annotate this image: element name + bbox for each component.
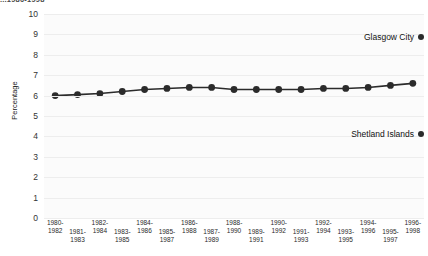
- y-axis-tick-labels: 109876543210: [16, 0, 38, 256]
- data-point[interactable]: [164, 85, 171, 92]
- data-point[interactable]: [409, 80, 416, 87]
- data-point[interactable]: [231, 86, 238, 93]
- data-point[interactable]: [186, 84, 193, 91]
- x-axis-tick: 1996-1998: [393, 219, 428, 235]
- y-axis-tick: 9: [22, 30, 38, 39]
- gridline: [44, 96, 424, 97]
- data-point[interactable]: [365, 84, 372, 91]
- y-axis-tick: 3: [22, 153, 38, 162]
- data-point[interactable]: [141, 86, 148, 93]
- legend-marker-shetland-islands: [418, 131, 424, 137]
- gridline: [44, 177, 424, 178]
- data-point[interactable]: [387, 82, 394, 89]
- data-point[interactable]: [119, 88, 126, 95]
- y-axis-tick: 2: [22, 173, 38, 182]
- page-title: ...1980-1998: [0, 0, 428, 4]
- data-point[interactable]: [275, 86, 282, 93]
- gridline: [44, 14, 424, 15]
- data-point[interactable]: [253, 86, 260, 93]
- y-axis-tick: 7: [22, 71, 38, 80]
- y-axis-tick: 6: [22, 91, 38, 100]
- data-point[interactable]: [74, 91, 81, 98]
- y-axis-tick: 8: [22, 51, 38, 60]
- gridline: [44, 116, 424, 117]
- gridline: [44, 198, 424, 199]
- legend-item-glasgow-city[interactable]: Glasgow City: [364, 33, 424, 42]
- legend-marker-glasgow-city: [418, 34, 424, 40]
- chart-title-strip: ...1980-1998: [0, 0, 428, 4]
- data-point[interactable]: [208, 84, 215, 91]
- y-axis-tick: 5: [22, 112, 38, 121]
- legend-label-shetland-islands: Shetland Islands: [351, 130, 414, 139]
- y-axis-tick: 1: [22, 193, 38, 202]
- legend-label-glasgow-city: Glasgow City: [364, 33, 414, 42]
- data-point[interactable]: [298, 86, 305, 93]
- gridline: [44, 55, 424, 56]
- data-point[interactable]: [320, 85, 327, 92]
- legend-item-shetland-islands[interactable]: Shetland Islands: [351, 130, 424, 139]
- gridline: [44, 157, 424, 158]
- y-axis-tick: 4: [22, 132, 38, 141]
- gridline: [44, 75, 424, 76]
- plot-area: [44, 14, 424, 218]
- x-axis-tick-labels: 1980-19821981-19831982-19841983-19851984…: [44, 219, 424, 255]
- chart-container: ...1980-1998 Percentage 109876543210 Gla…: [0, 0, 428, 256]
- data-point[interactable]: [342, 85, 349, 92]
- y-axis-tick: 10: [22, 10, 38, 19]
